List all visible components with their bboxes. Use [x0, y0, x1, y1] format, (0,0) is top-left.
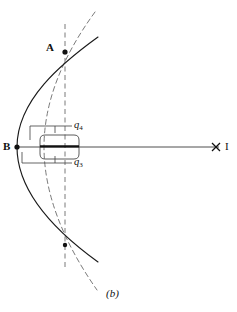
- solid-mirror-arc: [17, 37, 98, 262]
- point-a-label: A: [46, 42, 54, 53]
- figure-caption: (b): [106, 288, 119, 299]
- point-b-label: B: [3, 141, 10, 152]
- charge-q4-label: q4: [74, 120, 83, 131]
- point-a-marker: [62, 49, 67, 54]
- charge-q4-subscript: 4: [79, 124, 83, 132]
- figure-container: A B I q4 q3 (b): [0, 0, 237, 312]
- q3-bracket: [45, 156, 55, 163]
- point-b-marker: [14, 144, 19, 149]
- charge-q3-label: q3: [74, 157, 83, 168]
- charge-q3-subscript: 3: [79, 161, 83, 169]
- optics-diagram-svg: [0, 0, 237, 312]
- dashed-reference-arc: [44, 12, 97, 290]
- bottom-intersection-marker: [63, 243, 67, 247]
- image-point-label: I: [225, 141, 229, 152]
- q4-bracket: [45, 126, 55, 133]
